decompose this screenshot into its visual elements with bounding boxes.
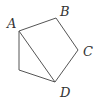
diagonal-a-d (19, 31, 55, 82)
vertex-label-b: B (59, 4, 70, 19)
edge-b-c (56, 18, 78, 50)
pentagon-diagram: A B C D (0, 0, 98, 102)
edge-d-e (19, 70, 55, 82)
vertex-label-a: A (6, 16, 16, 31)
vertex-label-d: D (59, 85, 71, 100)
edge-c-d (55, 50, 78, 82)
vertex-label-c: C (83, 44, 93, 59)
edge-a-b (19, 18, 56, 31)
